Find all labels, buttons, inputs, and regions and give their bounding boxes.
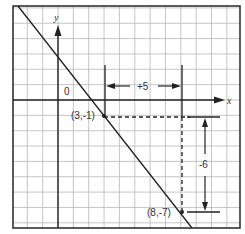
coordinate-graph: x y 0 +5 -6 (3,-1) (8,-7): [0, 0, 245, 234]
point-label-3-neg1: (3,-1): [71, 110, 95, 121]
run-arrow-right-head-icon: [172, 83, 181, 89]
y-axis-arrow-icon: [55, 25, 62, 36]
point-8-neg7: [180, 210, 184, 214]
point-label-8-neg7: (8,-7): [147, 207, 171, 218]
run-arrow-left-head-icon: [106, 83, 115, 89]
x-axis-arrow-icon: [214, 97, 225, 104]
x-axis-label: x: [226, 95, 232, 106]
y-axis-label: y: [53, 12, 59, 23]
origin-label: 0: [64, 86, 70, 97]
rise-label: -6: [199, 159, 208, 170]
run-label: +5: [137, 81, 149, 92]
point-3-neg1: [102, 114, 106, 118]
rise-arrow-up-head-icon: [202, 118, 208, 127]
rise-arrow-down-head-icon: [202, 202, 208, 211]
